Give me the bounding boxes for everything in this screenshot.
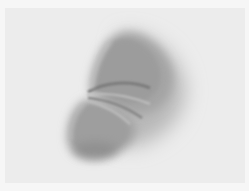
fabric-fold-illustration: [5, 8, 245, 183]
bottom-shadow: [73, 142, 117, 158]
photo: [5, 8, 245, 183]
photo-frame: [0, 0, 249, 191]
